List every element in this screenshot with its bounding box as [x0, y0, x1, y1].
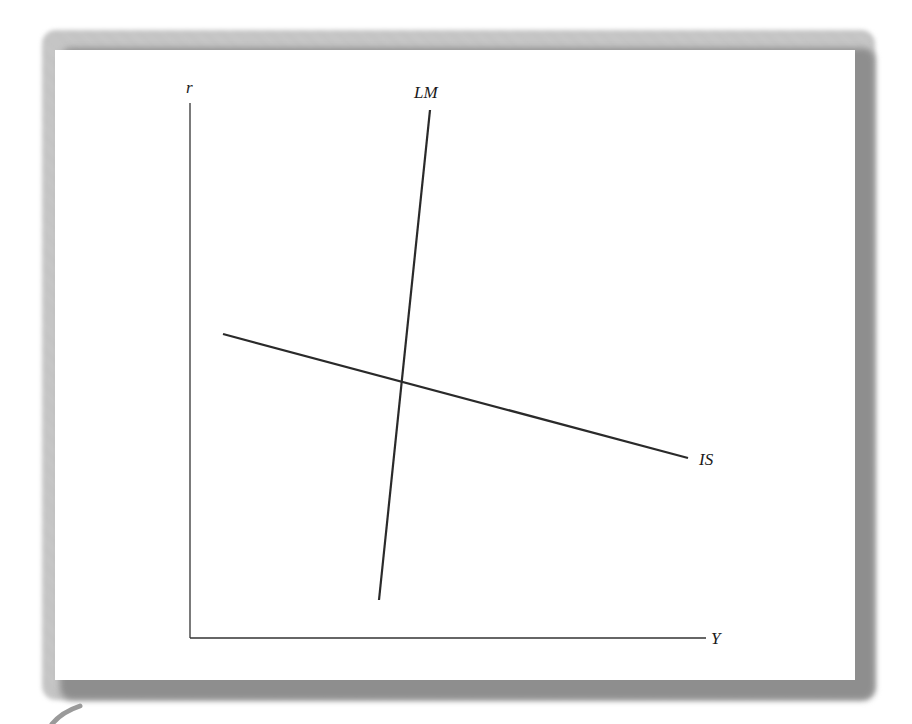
y-axis-label: Y	[711, 629, 722, 648]
is-label: IS	[698, 450, 714, 469]
is-lm-diagram: r Y LM IS	[0, 0, 912, 724]
lm-label: LM	[413, 83, 438, 102]
r-axis-label: r	[186, 78, 193, 97]
lm-curve	[379, 110, 430, 600]
decorative-stroke	[52, 706, 80, 724]
is-curve	[223, 334, 688, 458]
